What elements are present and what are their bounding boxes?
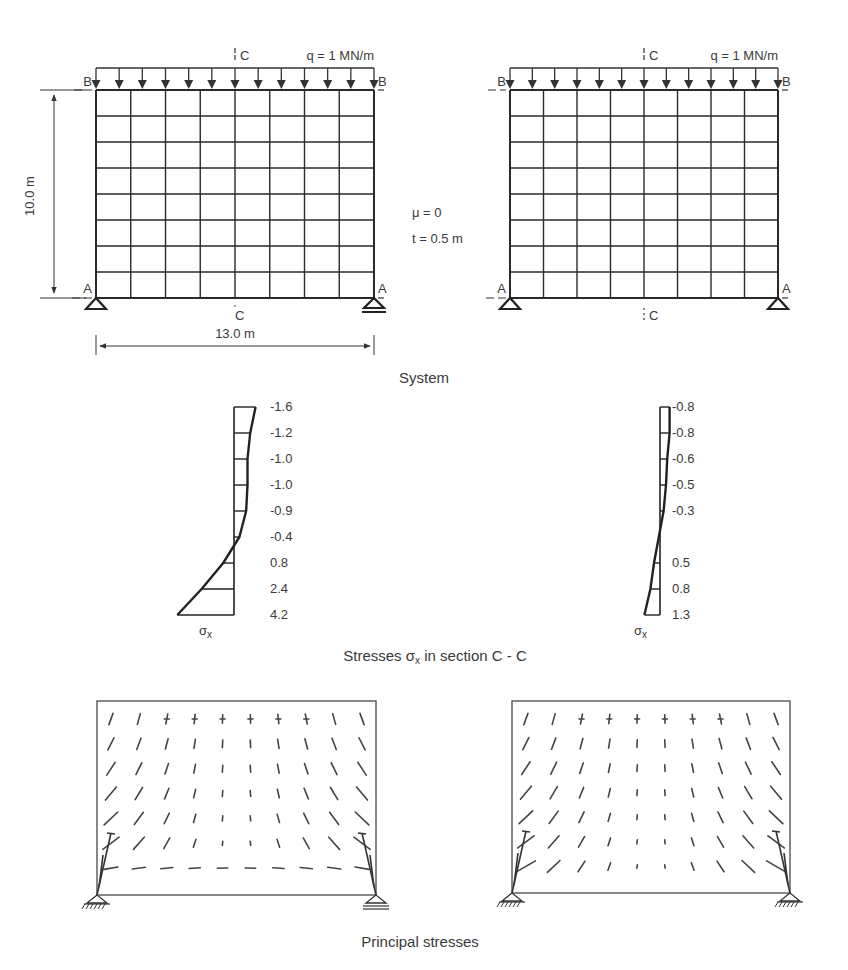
- principal-stress-trajectory: [718, 812, 723, 823]
- principal-stress-trajectory: [768, 836, 784, 848]
- sigma-x-label: σx: [634, 623, 647, 640]
- principal-stress-trajectory: [103, 837, 119, 849]
- principal-stress-trajectory: [692, 813, 694, 821]
- principal-stress-trajectory: [109, 713, 113, 724]
- height-dimension: 10.0 m: [22, 90, 86, 298]
- sigma-subscript: x: [207, 629, 212, 640]
- principal-stress-trajectory: [772, 762, 780, 775]
- principal-stress-trajectory: [333, 714, 336, 725]
- stress-value-label: -0.8: [672, 425, 694, 440]
- principal-stress-trajectory: [133, 837, 144, 849]
- load-arrow-head-icon: [92, 80, 101, 89]
- support-hatch: [517, 902, 520, 907]
- distributed-load: [506, 68, 783, 89]
- principal-stress-trajectory: [304, 763, 308, 773]
- principal-stress-trajectory: [134, 812, 143, 824]
- width-dimension-label: 13.0 m: [215, 326, 255, 341]
- principal-stress-trajectory: [552, 738, 556, 749]
- section-c-label-bottom: C: [235, 308, 244, 323]
- principal-stress-trajectory: [519, 811, 533, 824]
- panel-outline: [97, 701, 376, 895]
- section-c-label-bottom: C: [649, 308, 658, 323]
- fe-mesh: [510, 90, 778, 298]
- figure-canvas: q = 1 MN/mCCBBAA q = 1 MN/mCCBBAA 10.0 m…: [0, 0, 848, 970]
- support-hatch: [509, 902, 512, 907]
- principal-stress-trajectory: [745, 787, 752, 799]
- support-strut-cap: [358, 833, 366, 834]
- principal-stress-trajectory: [194, 739, 195, 748]
- principal-stress-trajectory: [277, 839, 280, 847]
- stress-value-label: 4.2: [270, 607, 288, 622]
- principal-stress-trajectory: [165, 788, 169, 799]
- principal-stress-trajectory: [742, 860, 755, 872]
- principal-stress-trajectory: [578, 837, 584, 848]
- principal-stress-trajectory: [136, 763, 142, 775]
- principal-stress-trajectory: [745, 762, 751, 774]
- principal-stress-trajectory: [719, 738, 722, 748]
- support-hatch: [94, 904, 97, 909]
- principal-stress-trajectory: [717, 861, 724, 872]
- support-hatch: [505, 902, 508, 907]
- fixed-pin-support-icon: [87, 895, 107, 903]
- principal-stress-trajectory: [330, 812, 339, 824]
- principal-stress-trajectory: [164, 838, 170, 849]
- principal-stress-trajectory: [332, 738, 336, 749]
- principal-stress-trajectory: [524, 713, 528, 724]
- stress-value-label: -1.0: [270, 477, 292, 492]
- principal-stress-trajectory: [523, 737, 529, 749]
- pin-support-icon: [86, 298, 106, 309]
- support-hatch: [82, 904, 85, 909]
- load-arrow-head-icon: [595, 80, 604, 89]
- principal-stress-trajectory: [744, 811, 753, 823]
- load-arrow-head-icon: [184, 80, 193, 89]
- principal-stress-trajectory: [329, 837, 340, 849]
- distributed-load: [92, 68, 379, 89]
- stress-distribution-curve: [644, 407, 669, 615]
- principal-stress-trajectory: [608, 838, 611, 846]
- principal-stress-trajectory: [747, 714, 750, 725]
- caption-stresses-prefix: Stresses: [343, 647, 406, 664]
- load-arrow-head-icon: [323, 80, 332, 89]
- principal-stress-trajectory: [522, 762, 530, 775]
- load-arrow-head-icon: [662, 80, 671, 89]
- load-arrow-head-icon: [729, 80, 738, 89]
- stress-value-label: 2.4: [270, 581, 288, 596]
- principal-stress-trajectory: [194, 764, 196, 773]
- caption-system: System: [399, 369, 449, 386]
- principal-stress-trajectory: [104, 812, 118, 825]
- load-arrow-head-icon: [751, 80, 760, 89]
- principal-stress-trajectory: [304, 788, 308, 799]
- stress-value-label: -0.5: [672, 477, 694, 492]
- principal-stress-trajectory: [193, 839, 196, 847]
- principal-stress-trajectory: [549, 811, 558, 823]
- principal-stress-trajectory: [691, 863, 694, 871]
- fixed-pin-support-icon: [780, 893, 800, 901]
- stress-value-label: -1.6: [270, 399, 292, 414]
- principal-stress-trajectory: [277, 789, 279, 797]
- height-dimension-label: 10.0 m: [22, 176, 37, 216]
- system-panel-right: q = 1 MN/mCCBBAA: [486, 48, 792, 323]
- principal-stress-trajectory: [355, 812, 369, 825]
- roller-support-icon: [364, 298, 384, 308]
- principal-stress-trajectory: [717, 837, 723, 848]
- load-label: q = 1 MN/m: [710, 48, 778, 63]
- principal-stress-panel-left: [82, 701, 389, 909]
- principal-stress-trajectory: [548, 836, 559, 848]
- support-strut-cap: [522, 831, 530, 832]
- load-arrow-head-icon: [138, 80, 147, 89]
- principal-stress-trajectory: [354, 837, 370, 849]
- principal-stress-trajectory: [165, 763, 169, 773]
- principal-stress-trajectory: [609, 739, 610, 748]
- principal-stress-trajectory: [305, 739, 308, 749]
- edge-label-b-left: B: [83, 74, 92, 89]
- system-panel-left: q = 1 MN/mCCBBAA: [72, 48, 388, 323]
- principal-stress-trajectory: [194, 789, 196, 797]
- principal-stress-trajectory: [547, 860, 560, 872]
- principal-stress-trajectory: [692, 764, 694, 773]
- fixed-pin-support-icon: [502, 893, 522, 901]
- edge-label-b-right: B: [378, 74, 387, 89]
- principal-stress-trajectory: [135, 787, 142, 799]
- load-arrow-head-icon: [115, 80, 124, 89]
- principal-stress-trajectory: [304, 813, 309, 824]
- principal-stress-trajectory: [719, 763, 723, 773]
